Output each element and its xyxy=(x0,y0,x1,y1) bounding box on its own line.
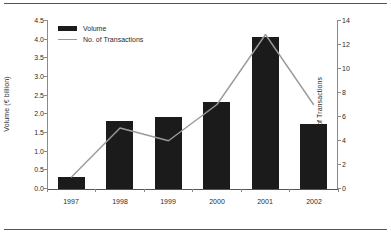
chart-figure: Volume (€ billion) No. of Transactions 4… xyxy=(0,0,391,235)
y-tickmark-left xyxy=(44,132,47,133)
y-tick-right-3: 8 xyxy=(342,89,364,96)
bar-1998 xyxy=(106,121,133,189)
y-tickmark-right xyxy=(338,116,341,117)
y-tick-left-7: 1.0 xyxy=(22,148,44,155)
y-tick-left-9: 0.0 xyxy=(22,185,44,192)
bar-1999 xyxy=(155,117,182,189)
y-tick-right-4: 6 xyxy=(342,113,364,120)
y-tick-left-5: 2.0 xyxy=(22,110,44,117)
y-tickmark-right xyxy=(338,44,341,45)
y-tick-right-1: 12 xyxy=(342,41,364,48)
y-tick-left-2: 3.5 xyxy=(22,54,44,61)
y-tick-left-1: 4.0 xyxy=(22,36,44,43)
bar-2001 xyxy=(252,37,279,189)
y-tickmark-left xyxy=(44,169,47,170)
y-tick-right-2: 10 xyxy=(342,65,364,72)
x-tickmark xyxy=(192,189,193,192)
bar-1997 xyxy=(58,177,85,189)
y-tick-left-0: 4.5 xyxy=(22,17,44,24)
y-tick-right-6: 2 xyxy=(342,161,364,168)
y-tick-left-8: 0.5 xyxy=(22,166,44,173)
bar-2002 xyxy=(300,124,327,189)
bar-2000 xyxy=(203,102,230,189)
plot-area: Volume (€ billion) No. of Transactions 4… xyxy=(0,0,391,235)
x-tick-1997: 1997 xyxy=(49,198,93,205)
y-tickmark-right xyxy=(338,92,341,93)
y-tickmark-left xyxy=(44,151,47,152)
y-axis-left-title: Volume (€ billion) xyxy=(3,62,10,146)
x-tick-1999: 1999 xyxy=(146,198,190,205)
legend-label-volume: Volume xyxy=(83,25,106,32)
y-tick-right-0: 14 xyxy=(342,17,364,24)
x-tickmark xyxy=(144,189,145,192)
x-tickmark xyxy=(338,189,339,192)
y-tick-left-3: 3.0 xyxy=(22,73,44,80)
x-tickmark xyxy=(289,189,290,192)
x-tickmark xyxy=(241,189,242,192)
y-tickmark-left xyxy=(44,39,47,40)
legend-bar-swatch-icon xyxy=(58,26,77,31)
y-tickmark-left xyxy=(44,113,47,114)
y-tickmark-right xyxy=(338,68,341,69)
chart-legend: Volume No. of Transactions xyxy=(58,23,143,45)
x-tick-2001: 2001 xyxy=(243,198,287,205)
x-tickmark xyxy=(47,189,48,192)
y-tickmark-right xyxy=(338,140,341,141)
y-tickmark-right xyxy=(338,20,341,21)
legend-label-transactions: No. of Transactions xyxy=(83,36,143,43)
y-axis-left-line xyxy=(47,20,48,189)
legend-line-swatch-icon xyxy=(58,39,77,40)
y-tick-right-5: 4 xyxy=(342,137,364,144)
y-tick-left-4: 2.5 xyxy=(22,92,44,99)
x-tick-1998: 1998 xyxy=(98,198,142,205)
legend-item-transactions: No. of Transactions xyxy=(58,34,143,45)
y-tick-right-7: 0 xyxy=(342,185,364,192)
y-tickmark-right xyxy=(338,164,341,165)
y-tickmark-left xyxy=(44,95,47,96)
x-tickmark xyxy=(95,189,96,192)
y-tick-left-6: 1.5 xyxy=(22,129,44,136)
legend-item-volume: Volume xyxy=(58,23,143,34)
y-tickmark-left xyxy=(44,76,47,77)
y-tickmark-left xyxy=(44,20,47,21)
x-tick-2002: 2002 xyxy=(292,198,336,205)
y-tickmark-left xyxy=(44,57,47,58)
x-tick-2000: 2000 xyxy=(195,198,239,205)
